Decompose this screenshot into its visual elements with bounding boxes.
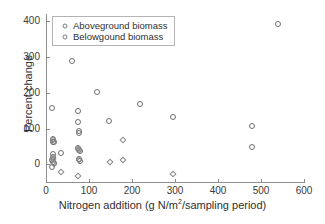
data-point-circle xyxy=(75,119,81,125)
legend-label-aboveground: Aboveground biomass xyxy=(73,21,168,31)
x-tick-label: 0 xyxy=(43,186,49,196)
data-point-diamond xyxy=(119,137,126,144)
data-point-circle xyxy=(49,105,55,111)
y-tick xyxy=(46,57,50,58)
x-tick xyxy=(261,179,262,183)
y-tick xyxy=(46,21,50,22)
data-point-diamond xyxy=(58,168,65,175)
x-tick-label: 200 xyxy=(124,186,141,196)
legend-label-belowground: Belowgound biomass xyxy=(73,32,163,42)
data-point-circle xyxy=(249,123,255,129)
y-tick xyxy=(46,93,50,94)
x-tick-label: 300 xyxy=(167,186,184,196)
data-point-diamond xyxy=(106,159,113,166)
data-point-diamond xyxy=(169,171,176,178)
x-axis-label: Nitrogen addition (g N/m2/sampling perio… xyxy=(0,200,325,211)
data-point-circle xyxy=(170,114,176,120)
data-point-circle xyxy=(94,89,100,95)
legend-item-belowground: Belowgound biomass xyxy=(57,31,168,42)
data-point-diamond xyxy=(75,172,82,179)
x-axis-label-before: Nitrogen addition (g N/m xyxy=(59,199,178,211)
y-tick-label: 0 xyxy=(34,159,40,169)
x-tick xyxy=(304,179,305,183)
legend-item-aboveground: Aboveground biomass xyxy=(57,20,168,31)
x-tick-label: 500 xyxy=(253,186,270,196)
x-tick xyxy=(89,179,90,183)
data-point-circle xyxy=(249,144,255,150)
y-tick xyxy=(46,129,50,130)
data-point-circle xyxy=(58,150,64,156)
x-axis-label-after: /sampling period) xyxy=(182,199,266,211)
chart-legend: Aboveground biomass Belowgound biomass xyxy=(52,16,175,46)
x-tick xyxy=(175,179,176,183)
data-point-circle xyxy=(75,108,81,114)
x-tick-label: 400 xyxy=(210,186,227,196)
legend-circle-marker-icon xyxy=(57,20,73,31)
x-tick-label: 600 xyxy=(296,186,313,196)
data-point-circle xyxy=(137,101,143,107)
data-point-circle xyxy=(76,130,82,136)
y-axis-line xyxy=(46,14,47,183)
x-tick xyxy=(132,179,133,183)
x-tick xyxy=(218,179,219,183)
y-axis-label: Percent change xyxy=(23,14,34,174)
legend-diamond-marker-icon xyxy=(57,31,73,42)
data-point-circle xyxy=(106,118,112,124)
data-point-circle xyxy=(275,21,281,27)
data-point-diamond xyxy=(120,157,127,164)
x-tick xyxy=(46,179,47,183)
x-tick-label: 100 xyxy=(81,186,98,196)
data-point-circle xyxy=(69,58,75,64)
scatter-chart-figure: 0100200300400500600 0100200300400 Percen… xyxy=(0,0,325,224)
